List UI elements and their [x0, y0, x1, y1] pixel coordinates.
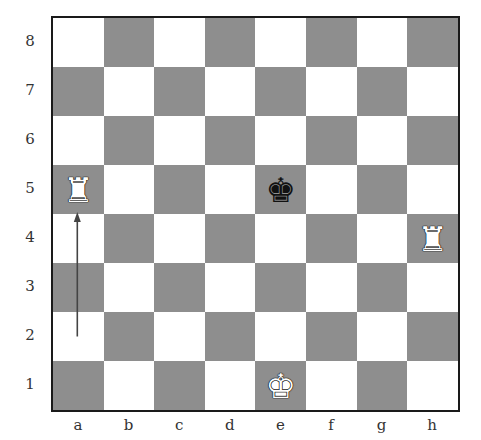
square-g2[interactable]	[357, 312, 408, 361]
rank-label-2: 2	[22, 326, 38, 344]
rank-label-4: 4	[22, 228, 38, 246]
square-f3[interactable]	[306, 263, 357, 312]
square-c6[interactable]	[154, 116, 205, 165]
square-e8[interactable]	[255, 18, 306, 67]
chess-board: ♜♜♚♚	[51, 16, 460, 412]
square-g5[interactable]	[357, 165, 408, 214]
square-d8[interactable]	[205, 18, 256, 67]
file-label-h: h	[407, 416, 457, 434]
square-f5[interactable]	[306, 165, 357, 214]
square-h8[interactable]	[407, 18, 458, 67]
square-c8[interactable]	[154, 18, 205, 67]
square-g7[interactable]	[357, 67, 408, 116]
square-f2[interactable]	[306, 312, 357, 361]
square-f4[interactable]	[306, 214, 357, 263]
white-rook-icon[interactable]: ♜	[407, 214, 458, 263]
rank-label-1: 1	[22, 375, 38, 393]
file-label-a: a	[53, 416, 103, 434]
square-f7[interactable]	[306, 67, 357, 116]
file-label-d: d	[205, 416, 255, 434]
square-d7[interactable]	[205, 67, 256, 116]
square-d2[interactable]	[205, 312, 256, 361]
square-c4[interactable]	[154, 214, 205, 263]
square-h5[interactable]	[407, 165, 458, 214]
square-e7[interactable]	[255, 67, 306, 116]
square-b3[interactable]	[104, 263, 155, 312]
square-d4[interactable]	[205, 214, 256, 263]
square-e2[interactable]	[255, 312, 306, 361]
square-f1[interactable]	[306, 361, 357, 410]
black-king-icon[interactable]: ♚	[255, 165, 306, 214]
square-d3[interactable]	[205, 263, 256, 312]
square-c5[interactable]	[154, 165, 205, 214]
square-f8[interactable]	[306, 18, 357, 67]
square-h1[interactable]	[407, 361, 458, 410]
file-label-f: f	[306, 416, 356, 434]
square-e4[interactable]	[255, 214, 306, 263]
file-label-g: g	[357, 416, 407, 434]
square-a3[interactable]	[53, 263, 104, 312]
square-g6[interactable]	[357, 116, 408, 165]
square-f6[interactable]	[306, 116, 357, 165]
square-d1[interactable]	[205, 361, 256, 410]
rank-label-7: 7	[22, 81, 38, 99]
file-label-c: c	[154, 416, 204, 434]
square-d6[interactable]	[205, 116, 256, 165]
square-h7[interactable]	[407, 67, 458, 116]
square-c2[interactable]	[154, 312, 205, 361]
white-rook-icon[interactable]: ♜	[53, 165, 104, 214]
square-a7[interactable]	[53, 67, 104, 116]
square-h2[interactable]	[407, 312, 458, 361]
rank-label-8: 8	[22, 32, 38, 50]
square-h6[interactable]	[407, 116, 458, 165]
white-king-icon[interactable]: ♚	[255, 361, 306, 410]
square-g4[interactable]	[357, 214, 408, 263]
file-label-b: b	[104, 416, 154, 434]
square-g8[interactable]	[357, 18, 408, 67]
square-c7[interactable]	[154, 67, 205, 116]
square-b6[interactable]	[104, 116, 155, 165]
rank-label-3: 3	[22, 277, 38, 295]
square-b1[interactable]	[104, 361, 155, 410]
square-b8[interactable]	[104, 18, 155, 67]
square-c1[interactable]	[154, 361, 205, 410]
square-h3[interactable]	[407, 263, 458, 312]
square-b2[interactable]	[104, 312, 155, 361]
square-e6[interactable]	[255, 116, 306, 165]
square-a6[interactable]	[53, 116, 104, 165]
rank-label-5: 5	[22, 179, 38, 197]
square-g3[interactable]	[357, 263, 408, 312]
square-a1[interactable]	[53, 361, 104, 410]
file-label-e: e	[255, 416, 305, 434]
square-c3[interactable]	[154, 263, 205, 312]
square-e3[interactable]	[255, 263, 306, 312]
square-b7[interactable]	[104, 67, 155, 116]
square-a4[interactable]	[53, 214, 104, 263]
square-a8[interactable]	[53, 18, 104, 67]
square-b4[interactable]	[104, 214, 155, 263]
square-d5[interactable]	[205, 165, 256, 214]
square-b5[interactable]	[104, 165, 155, 214]
square-a2[interactable]	[53, 312, 104, 361]
rank-label-6: 6	[22, 130, 38, 148]
square-g1[interactable]	[357, 361, 408, 410]
